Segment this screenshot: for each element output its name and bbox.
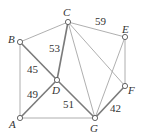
node-label-d: D — [51, 84, 60, 96]
edge-weight-label: 49 — [27, 88, 39, 100]
node-label-g: G — [90, 122, 98, 134]
edge-weight-label: 53 — [49, 42, 61, 54]
edge-weight-label: 42 — [110, 102, 121, 114]
node-label-c: C — [63, 6, 71, 18]
node-b — [17, 39, 22, 44]
node-label-b: B — [8, 33, 15, 45]
edge-c-f — [68, 22, 125, 86]
node-label-e: E — [121, 23, 129, 35]
graph-diagram: 594553495142 ABCDEFG — [0, 0, 143, 136]
node-d — [54, 77, 59, 82]
node-c — [65, 19, 70, 24]
node-a — [17, 115, 22, 120]
node-g — [92, 115, 97, 120]
node-label-a: A — [8, 118, 16, 130]
node-e — [122, 34, 127, 39]
edge-weight-label: 59 — [95, 15, 107, 27]
node-label-f: F — [127, 84, 135, 96]
edge-b-c — [20, 22, 68, 42]
node-f — [122, 83, 127, 88]
edge-weight-label: 45 — [27, 63, 39, 75]
edge-weight-label: 51 — [63, 98, 74, 110]
